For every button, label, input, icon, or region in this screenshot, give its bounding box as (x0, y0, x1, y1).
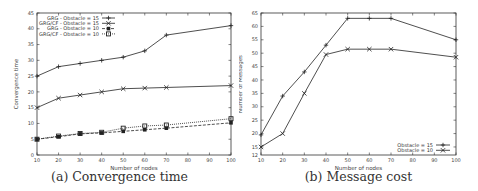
message-cost-chart: 1020304050607080901001520253035404550556… (239, 0, 478, 191)
legend-entry: GRG/CF - Obstacle = 10 (39, 31, 99, 37)
y-tick-label: 20 (28, 89, 34, 95)
y-tick-label: 60 (252, 23, 258, 29)
chart-caption: (b) Message cost (239, 169, 478, 184)
x-tick-label: 30 (77, 157, 83, 163)
convergence-time-plot: 102030405060708090100051015202530354045N… (0, 0, 239, 170)
y-tick-label: 40 (252, 77, 258, 83)
y-axis-label: Number of Messages (239, 55, 244, 113)
legend: GRG - Obstacle = 15GRG/CF - Obstacle = 1… (39, 15, 115, 37)
x-tick-label: 10 (34, 157, 40, 163)
y-tick-label: 30 (252, 103, 258, 109)
chart-caption: (a) Convergence time (0, 169, 239, 184)
x-tick-label: 100 (451, 157, 461, 163)
y-tick-label: 50 (252, 50, 258, 56)
series-line (35, 83, 233, 109)
x-tick-label: 80 (409, 157, 415, 163)
series-line (259, 47, 458, 149)
y-tick-label: 15 (28, 104, 34, 110)
convergence-time-chart: 102030405060708090100051015202530354045N… (0, 0, 239, 191)
legend-entry: Obstacle = 10 (397, 147, 433, 153)
x-tick-label: 20 (279, 157, 285, 163)
y-tick-label: 30 (28, 57, 34, 63)
y-tick-label: 25 (252, 117, 258, 123)
x-tick-label: 90 (431, 157, 437, 163)
x-tick-label: 60 (142, 157, 148, 163)
series-line (259, 16, 458, 137)
y-tick-label: 45 (252, 63, 258, 69)
x-tick-label: 30 (301, 157, 307, 163)
x-tick-label: 40 (323, 157, 329, 163)
y-tick-label: 45 (28, 10, 34, 16)
y-tick-label: 65 (252, 10, 258, 16)
y-tick-label: 10 (28, 120, 34, 126)
y-tick-label: 20 (252, 130, 258, 136)
y-tick-label: 0 (31, 152, 34, 158)
x-tick-label: 60 (366, 157, 372, 163)
x-tick-label: 90 (206, 157, 212, 163)
y-tick-label: 15 (252, 144, 258, 150)
x-tick-label: 70 (163, 157, 169, 163)
x-tick-label: 50 (344, 157, 350, 163)
x-tick-label: 70 (388, 157, 394, 163)
y-tick-label: 35 (28, 41, 34, 47)
x-tick-label: 50 (120, 157, 126, 163)
y-tick-label: 5 (31, 136, 34, 142)
y-tick-label: 40 (28, 25, 34, 31)
y-tick-label: 12 (252, 152, 258, 158)
message-cost-plot: 1020304050607080901001520253035404550556… (239, 0, 478, 170)
y-tick-label: 25 (28, 73, 34, 79)
legend: Obstacle = 15Obstacle = 10 (397, 142, 450, 153)
y-axis-label: Convergence time (13, 58, 20, 109)
x-tick-label: 40 (98, 157, 104, 163)
series-line (35, 121, 233, 141)
series-line (35, 117, 233, 142)
y-tick-label: 55 (252, 36, 258, 42)
x-tick-label: 100 (226, 157, 236, 163)
y-tick-label: 35 (252, 90, 258, 96)
x-tick-label: 20 (55, 157, 61, 163)
x-tick-label: 10 (258, 157, 264, 163)
x-tick-label: 80 (185, 157, 191, 163)
